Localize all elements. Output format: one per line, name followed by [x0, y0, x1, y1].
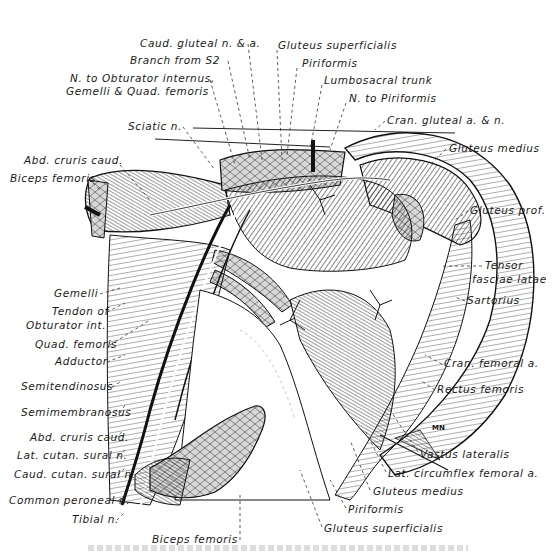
label-piriformis-bottom: Piriformis: [348, 503, 404, 515]
label-tensor-1: Tensor: [485, 259, 523, 271]
label-branch-s2: Branch from S2: [130, 54, 220, 66]
label-common-peroneal: Common peroneal n.: [9, 494, 130, 506]
label-gluteus-medius-bottom: Gluteus medius: [373, 485, 464, 497]
label-gluteus-medius-top: Gluteus medius: [449, 142, 540, 154]
label-cran-femoral: Cran. femoral a.: [444, 357, 539, 369]
label-tensor-2: fasciae latae: [472, 273, 547, 285]
label-vastus-lateralis: Vastus lateralis: [420, 448, 510, 460]
label-lat-cutan-sural: Lat. cutan. sural n.: [17, 449, 128, 461]
label-biceps-femoris-top: Biceps femoris: [10, 172, 96, 184]
label-sartorius: Sartorius: [467, 294, 520, 306]
label-rectus-femoris: Rectus femoris: [437, 383, 524, 395]
label-n-obturator-1: N. to Obturator internus,: [70, 72, 215, 84]
label-lat-circumflex: Lat. circumflex femoral a.: [388, 467, 539, 479]
label-semimembranosus: Semimembranosus: [21, 406, 131, 418]
label-gluteus-prof: Gluteus prof.: [470, 204, 546, 216]
label-tendon-obturator-1: Tendon of: [52, 305, 109, 317]
label-biceps-femoris-bottom: Biceps femoris: [152, 533, 238, 545]
figure-caption-cropped: [88, 545, 468, 551]
label-n-obturator-2: Gemelli & Quad. femoris: [66, 85, 209, 97]
label-lumbosacral-trunk: Lumbosacral trunk: [324, 74, 433, 86]
artist-signature: MN: [432, 424, 445, 432]
label-quad-femoris: Quad. femoris: [35, 338, 117, 350]
anatomy-figure: MN Caud. gluteal n. & a. Branch from S2 …: [0, 0, 555, 552]
label-gluteus-superficialis-top: Gluteus superficialis: [278, 39, 397, 51]
label-abd-cruris-caud-top: Abd. cruris caud.: [24, 154, 123, 166]
label-adductor: Adductor: [55, 355, 108, 367]
label-caud-cutan-sural: Caud. cutan. sural n.: [14, 468, 136, 480]
label-piriformis-top: Piriformis: [302, 57, 358, 69]
label-semitendinosus: Semitendinosus: [21, 380, 113, 392]
label-gluteus-superficialis-bottom: Gluteus superficialis: [324, 522, 443, 534]
label-cran-gluteal: Cran. gluteal a. & n.: [387, 114, 505, 126]
label-sciatic: Sciatic n.: [128, 120, 182, 132]
label-tibial: Tibial n.: [72, 513, 119, 525]
label-tendon-obturator-2: Obturator int.: [26, 319, 106, 331]
label-gemelli: Gemelli: [54, 287, 98, 299]
label-abd-cruris-caud-bottom: Abd. cruris caud.: [30, 431, 129, 443]
label-caud-gluteal: Caud. gluteal n. & a.: [140, 37, 261, 49]
label-n-piriformis: N. to Piriformis: [349, 92, 437, 104]
